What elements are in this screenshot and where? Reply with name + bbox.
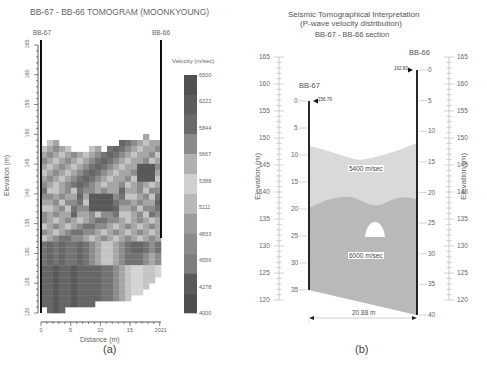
tick-label: 30 [428,250,435,257]
tick-label: 150 [457,134,468,141]
tick-label: 125 [457,269,468,276]
tick-label: 135 [457,215,468,222]
left-collar-elevation: 156.79 [318,97,332,102]
right-borehole-label-b: BB-66 [409,48,430,57]
tick-label: 130 [457,242,468,249]
tick-label: 35 [291,286,298,293]
tick-label: 30 [291,259,298,266]
tick-label: 165 [457,53,468,60]
tick-label: 15 [428,158,435,165]
tick-label: 0 [294,97,298,104]
right-collar-elevation: 162.83 [394,66,408,71]
tick-label: 165 [259,53,270,60]
tick-label: 20 [428,189,435,196]
tick-label: 160 [259,80,270,87]
tick-label: 120 [259,296,270,303]
tick-label: 150 [259,134,270,141]
tick-label: 155 [259,107,270,114]
tick-label: 40 [428,311,435,318]
y-axis-label-b-right: Elevation (m) [459,153,468,200]
tick-label: 130 [259,242,270,249]
tick-label: 10 [291,151,298,158]
tick-label: 160 [457,80,468,87]
tick-label: 135 [259,215,270,222]
tick-label: 15 [291,178,298,185]
caption-b: (b) [355,343,368,355]
lower-layer-label: 6000 m/sec [348,252,384,259]
tick-label: 120 [457,296,468,303]
tick-label: 35 [428,280,435,287]
tick-label: 25 [291,232,298,239]
distance-label: 20.88 m [352,309,376,316]
y-axis-label-b-left: Elevation (m) [253,153,262,200]
tick-label: 25 [428,219,435,226]
tick-label: 5 [294,124,298,131]
tick-label: 20 [291,205,298,212]
tick-label: 125 [259,269,270,276]
tick-label: 10 [428,127,435,134]
tick-label: 5 [428,97,432,104]
upper-layer-label: 5400 m/sec [348,165,384,172]
tick-label: 0 [428,66,432,73]
left-borehole-label-b: BB-67 [299,81,320,90]
tick-label: 155 [457,107,468,114]
